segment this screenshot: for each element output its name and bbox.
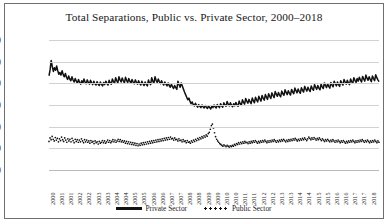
y-tick-label: 6.0 xyxy=(0,36,1,45)
legend-swatch-dotted-icon xyxy=(203,207,229,210)
legend-swatch-solid-icon xyxy=(116,207,142,209)
x-axis-tick-labels: 2000200120012002200220032003200420042005… xyxy=(49,171,379,205)
y-tick-label: 4.0 xyxy=(0,79,1,88)
y-tick-label: 0.0 xyxy=(0,166,1,175)
legend-item-private: Private Sector xyxy=(116,203,187,213)
gridline xyxy=(49,127,379,128)
gridline xyxy=(49,62,379,63)
gridline xyxy=(49,105,379,106)
series-line-0 xyxy=(49,61,379,109)
y-tick-label: 1.0 xyxy=(0,144,1,153)
legend-item-public: Public Sector xyxy=(203,203,272,213)
gridline xyxy=(49,148,379,149)
y-tick-label: 2.0 xyxy=(0,123,1,132)
legend-label-private: Private Sector xyxy=(145,204,187,213)
chart-legend: Private Sector Public Sector xyxy=(5,203,383,213)
plot-area xyxy=(49,40,379,170)
legend-label-public: Public Sector xyxy=(232,204,272,213)
chart-title: Total Separations, Public vs. Private Se… xyxy=(5,11,383,23)
y-tick-label: 5.0 xyxy=(0,58,1,67)
gridline xyxy=(49,40,379,41)
gridline xyxy=(49,83,379,84)
chart-frame: Total Separations, Public vs. Private Se… xyxy=(4,3,384,219)
y-tick-label: 3.0 xyxy=(0,101,1,110)
